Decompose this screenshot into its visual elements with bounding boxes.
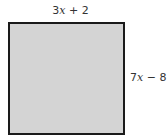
right-coefficient: 7 <box>130 71 137 84</box>
square-shape <box>8 22 125 135</box>
right-constant: − 8 <box>143 71 166 84</box>
top-side-length-label: 3x + 2 <box>0 5 141 16</box>
top-constant: + 2 <box>66 4 89 17</box>
right-side-length-label: 7x − 8 <box>130 72 166 83</box>
